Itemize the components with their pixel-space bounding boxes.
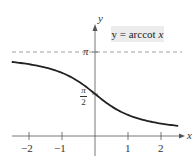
function-label-var: x — [159, 28, 164, 40]
function-label: y = arccotx — [111, 26, 164, 42]
x-axis-arrow-icon — [179, 134, 185, 139]
y-axis-arrow-icon — [93, 24, 98, 31]
x-tick-label: 1 — [125, 143, 131, 154]
x-tick-label: −2 — [21, 143, 33, 154]
half-pi-numerator: π — [81, 86, 86, 95]
y-tick-label-pi: π — [83, 46, 89, 57]
x-tick-label: 2 — [158, 143, 164, 154]
function-label-text: y = arccot — [112, 28, 156, 40]
x-tick-label: −1 — [54, 143, 66, 154]
half-pi-denominator: 2 — [81, 98, 86, 107]
y-axis-label: y — [98, 13, 103, 24]
x-axis-label: x — [187, 130, 192, 141]
y-tick-label-half-pi: π 2 — [80, 86, 87, 107]
